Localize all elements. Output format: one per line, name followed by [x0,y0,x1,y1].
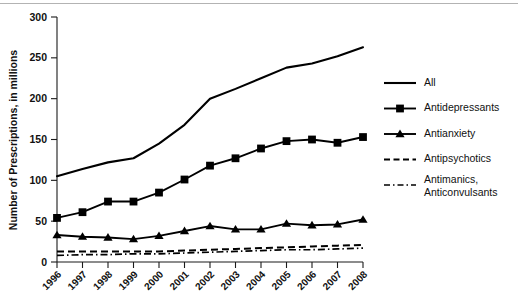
data-point-square [181,176,189,184]
y-tick-label: 300 [29,11,47,23]
x-axis-tick-labels: 1996199719981999200020012002200320042005… [40,268,370,292]
legend-label-line2: Anticonvulsants [424,186,498,198]
y-axis-ticks [51,17,57,262]
data-point-triangle [205,222,214,230]
x-tick-label: 2006 [295,268,319,292]
y-tick-label: 100 [29,174,47,186]
y-axis-tick-labels: 050100150200250300 [29,11,47,268]
y-tick-label: 200 [29,92,47,104]
x-axis: 1996199719981999200020012002200320042005… [40,262,370,292]
legend-label: Antianxiety [424,127,476,139]
series-all [57,47,363,176]
x-tick-label: 1996 [40,268,64,292]
x-tick-label: 1997 [65,268,89,292]
line-chart: 050100150200250300 Number of Prescriptio… [0,0,518,304]
x-axis-ticks [57,262,363,268]
y-axis: 050100150200250300 Number of Prescriptio… [7,11,57,268]
chart-figure: 050100150200250300 Number of Prescriptio… [0,0,518,304]
x-tick-label: 1998 [91,268,115,292]
x-tick-label: 2002 [193,268,217,292]
data-point-square [359,133,367,141]
y-tick-label: 250 [29,51,47,63]
data-point-square [53,214,61,222]
legend-label: Antipsychotics [424,152,491,164]
legend-item-antianxiety[interactable]: Antianxiety [384,127,476,139]
series-path [57,47,363,176]
y-tick-label: 0 [41,256,47,268]
chart-legend: AllAntidepressantsAntianxietyAntipsychot… [384,76,499,199]
data-point-square [104,198,112,206]
x-tick-label: 2007 [320,268,344,292]
series-group [52,47,367,255]
y-tick-label: 150 [29,133,47,145]
legend-marker-square [396,105,404,113]
x-tick-label: 2001 [167,268,191,292]
data-point-square [206,162,214,170]
x-tick-label: 1999 [116,268,140,292]
legend-item-antidepressants[interactable]: Antidepressants [384,101,499,113]
data-point-square [334,139,342,147]
data-point-square [308,136,316,144]
legend-item-all[interactable]: All [384,76,436,88]
x-tick-label: 2005 [269,268,293,292]
x-tick-label: 2008 [346,268,370,292]
legend-label: All [424,76,436,88]
x-tick-label: 2004 [244,268,268,292]
series-antipsychotics [57,245,363,252]
y-tick-label: 50 [35,215,47,227]
x-tick-label: 2000 [142,268,166,292]
data-point-square [283,137,291,145]
legend-item-antimanics[interactable]: Antimanics,Anticonvulsants [384,173,498,199]
series-path [57,245,363,252]
series-antidepressants [53,133,367,222]
series-path [57,137,363,218]
data-point-square [257,145,265,153]
data-point-square [155,189,163,197]
legend-item-antipsychotics[interactable]: Antipsychotics [384,152,491,164]
data-point-square [79,208,87,216]
y-axis-title: Number of Prescriptions, in millions [7,50,19,230]
data-point-triangle [358,215,367,223]
legend-label: Antimanics, [424,173,478,185]
data-point-square [130,198,138,206]
x-tick-label: 2003 [218,268,242,292]
legend-label: Antidepressants [424,101,499,113]
data-point-square [232,154,240,162]
series-antianxiety [52,215,367,242]
